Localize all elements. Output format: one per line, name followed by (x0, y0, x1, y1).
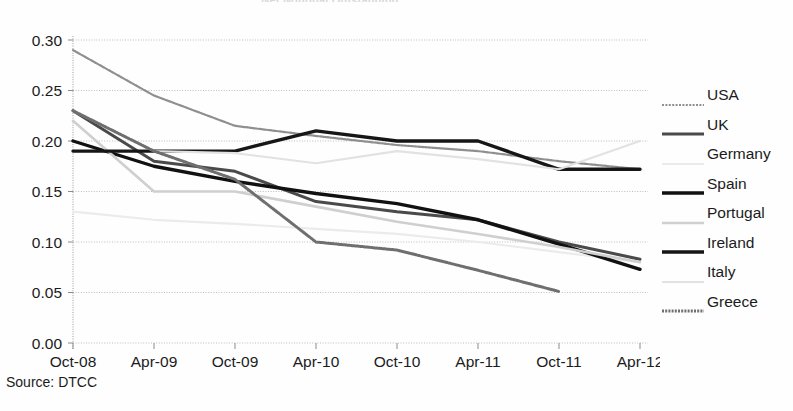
legend-item-label: Spain (707, 176, 747, 192)
legend-item-germany[interactable]: Germany (662, 139, 790, 169)
x-axis-tick-label: Oct-11 (536, 353, 581, 370)
legend-item-label: USA (707, 87, 739, 103)
y-axis-tick-label: 0.20 (32, 133, 63, 150)
x-axis-tick-label: Apr-09 (131, 353, 178, 370)
legend-item-greece[interactable]: Greece (662, 287, 790, 317)
legend-item-label: Ireland (707, 235, 754, 251)
legend-item-label: UK (707, 117, 729, 133)
y-axis-tick-label: 0.00 (32, 335, 63, 352)
series-line-ireland (73, 131, 640, 169)
x-axis-tick-label: Oct-09 (212, 353, 259, 370)
legend-item-ireland[interactable]: Ireland (662, 228, 790, 258)
y-axis-tick-label: 0.30 (32, 32, 63, 49)
series-lines (73, 50, 640, 291)
x-axis-tick-label: Apr-10 (293, 353, 340, 370)
y-axis-tick-labels: 0.000.050.100.150.200.250.30 (32, 32, 63, 352)
legend-item-label: Germany (707, 146, 771, 162)
y-axis-tick-label: 0.25 (32, 82, 62, 99)
y-axis-tick-label: 0.05 (32, 284, 62, 301)
legend-item-uk[interactable]: UK (662, 110, 790, 140)
legend-item-label: Greece (707, 294, 758, 310)
x-axis-tick-label: Oct-08 (50, 353, 97, 370)
y-axis-tick-label: 0.10 (32, 234, 63, 251)
x-axis-tick-label: Apr-12 (617, 353, 660, 370)
legend-item-spain[interactable]: Spain (662, 169, 790, 199)
x-axis-tick-labels: Oct-08Apr-09Oct-09Apr-10Oct-10Apr-11Oct-… (50, 353, 660, 370)
legend-item-portugal[interactable]: Portugal (662, 198, 790, 228)
legend-item-label: Portugal (707, 205, 765, 221)
x-axis-tick-label: Apr-11 (455, 353, 500, 370)
chart-legend: USAUKGermanySpainPortugalIrelandItalyGre… (662, 80, 790, 316)
x-axis-tick-label: Oct-10 (374, 353, 421, 370)
legend-item-usa[interactable]: USA (662, 80, 790, 110)
series-line-germany (73, 212, 640, 263)
chart-root: Net Notional Outstanding 0.000.050.100.1… (0, 0, 793, 411)
line-chart-plot: 0.000.050.100.150.200.250.30 Oct-08Apr-0… (0, 0, 660, 370)
y-axis-tick-label: 0.15 (32, 183, 62, 200)
legend-item-italy[interactable]: Italy (662, 257, 790, 287)
source-note: Source: DTCC (6, 374, 97, 390)
series-line-uk (73, 111, 640, 259)
legend-item-label: Italy (707, 264, 735, 280)
